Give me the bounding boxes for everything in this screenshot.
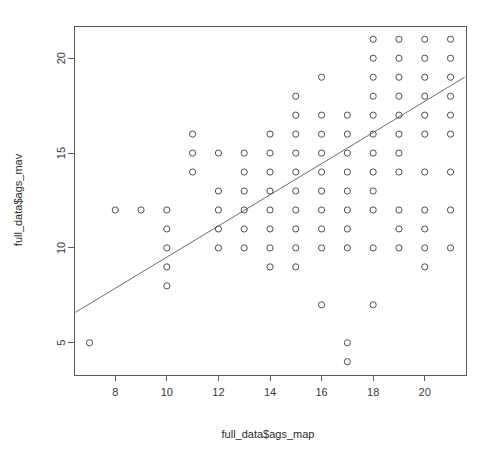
data-point: [422, 36, 428, 42]
data-point: [318, 188, 324, 194]
data-point: [267, 169, 273, 175]
x-tick-label: 12: [212, 386, 224, 398]
data-point: [370, 169, 376, 175]
data-point: [447, 169, 453, 175]
data-point: [422, 264, 428, 270]
x-axis-label: full_data$ags_map: [222, 428, 315, 440]
data-point: [422, 169, 428, 175]
data-point: [447, 93, 453, 99]
data-point: [267, 207, 273, 213]
data-point: [318, 112, 324, 118]
data-point: [447, 36, 453, 42]
x-tick-label: 10: [161, 386, 173, 398]
data-point: [318, 74, 324, 80]
data-point: [293, 150, 299, 156]
data-point: [447, 112, 453, 118]
data-point: [293, 245, 299, 251]
data-point: [370, 188, 376, 194]
scatter-plot-figure: 8101214161820 5101520 full_data$ags_map …: [0, 0, 488, 449]
data-point: [293, 93, 299, 99]
data-point: [344, 359, 350, 365]
data-point: [396, 226, 402, 232]
data-point: [190, 169, 196, 175]
data-point: [267, 131, 273, 137]
data-point: [293, 131, 299, 137]
x-tick-label: 16: [315, 386, 327, 398]
data-point: [344, 340, 350, 346]
data-point: [422, 226, 428, 232]
data-point: [318, 302, 324, 308]
data-point: [370, 93, 376, 99]
data-point: [370, 74, 376, 80]
data-point: [447, 131, 453, 137]
data-point: [370, 112, 376, 118]
data-point: [344, 112, 350, 118]
data-point: [396, 207, 402, 213]
data-point: [396, 36, 402, 42]
data-point: [370, 207, 376, 213]
data-point: [138, 207, 144, 213]
data-point: [422, 131, 428, 137]
data-point: [267, 150, 273, 156]
data-point: [344, 169, 350, 175]
plot-frame: [74, 26, 466, 375]
data-point: [318, 226, 324, 232]
data-point: [164, 207, 170, 213]
data-point: [447, 55, 453, 61]
data-point: [190, 131, 196, 137]
data-point: [447, 74, 453, 80]
data-point: [422, 112, 428, 118]
data-point: [344, 131, 350, 137]
data-points: [86, 36, 453, 365]
data-point: [344, 207, 350, 213]
data-point: [344, 150, 350, 156]
data-point: [318, 150, 324, 156]
data-point: [396, 150, 402, 156]
data-point: [293, 112, 299, 118]
data-point: [215, 150, 221, 156]
data-point: [370, 150, 376, 156]
data-point: [396, 131, 402, 137]
data-point: [318, 131, 324, 137]
plot-border: [74, 26, 466, 375]
data-point: [396, 55, 402, 61]
data-point: [293, 169, 299, 175]
data-point: [422, 74, 428, 80]
data-point: [422, 207, 428, 213]
data-point: [164, 245, 170, 251]
data-point: [293, 207, 299, 213]
data-point: [318, 169, 324, 175]
data-point: [318, 245, 324, 251]
data-point: [447, 207, 453, 213]
data-point: [293, 226, 299, 232]
x-axis-ticks: 8101214161820: [112, 375, 431, 398]
data-point: [241, 150, 247, 156]
data-point: [86, 340, 92, 346]
data-point: [267, 226, 273, 232]
data-point: [293, 264, 299, 270]
data-point: [164, 283, 170, 289]
data-point: [318, 207, 324, 213]
data-point: [370, 245, 376, 251]
data-point: [396, 245, 402, 251]
data-point: [164, 226, 170, 232]
data-point: [241, 226, 247, 232]
y-tick-label: 5: [55, 340, 67, 346]
data-point: [267, 188, 273, 194]
data-point: [422, 55, 428, 61]
y-axis-label: full_data$ags_mav: [12, 153, 24, 246]
data-point: [447, 245, 453, 251]
data-point: [267, 264, 273, 270]
data-point: [241, 169, 247, 175]
data-point: [422, 93, 428, 99]
data-point: [344, 226, 350, 232]
regression-line: [75, 77, 464, 312]
y-axis-ticks: 5101520: [55, 52, 74, 346]
data-point: [370, 36, 376, 42]
plot-canvas: 8101214161820 5101520 full_data$ags_map …: [0, 0, 488, 449]
data-point: [215, 207, 221, 213]
x-tick-label: 8: [112, 386, 118, 398]
data-point: [215, 245, 221, 251]
data-point: [241, 245, 247, 251]
data-point: [370, 302, 376, 308]
